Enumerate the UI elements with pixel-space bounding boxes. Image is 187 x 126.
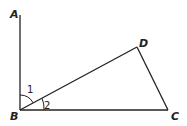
label-c: C xyxy=(171,110,179,123)
angle-1-label: 1 xyxy=(27,84,33,95)
diagram-svg: A B C D 1 2 xyxy=(0,0,187,126)
geometry-diagram: A B C D 1 2 xyxy=(0,0,187,126)
segment-bd xyxy=(20,47,137,110)
label-b: B xyxy=(10,110,18,123)
segment-dc xyxy=(137,47,168,110)
label-a: A xyxy=(9,8,19,21)
angle-1-arc xyxy=(20,95,33,103)
angle-2-label: 2 xyxy=(44,100,50,111)
label-d: D xyxy=(139,37,148,50)
